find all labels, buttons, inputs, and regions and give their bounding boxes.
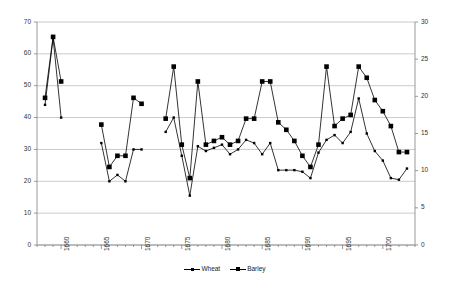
series-marker	[163, 116, 168, 121]
series-marker	[277, 169, 279, 171]
series-marker	[197, 145, 199, 147]
left-axis-tick-label: 60	[0, 50, 31, 57]
series-marker	[374, 150, 376, 152]
series-marker	[115, 154, 120, 159]
right-axis-tick-label: 0	[421, 242, 425, 249]
left-axis-tick-label: 70	[0, 19, 31, 26]
series-marker	[204, 142, 209, 147]
series-marker	[221, 143, 223, 145]
series-marker	[405, 150, 410, 155]
series-marker	[188, 176, 193, 181]
series-marker	[228, 142, 233, 147]
series-marker	[261, 153, 263, 155]
series-marker	[308, 165, 313, 170]
x-axis-tick-label: 1675	[185, 237, 192, 251]
series-marker	[212, 139, 217, 144]
legend-label: Barley	[247, 265, 265, 272]
series-marker	[332, 124, 337, 129]
series-marker	[236, 139, 241, 144]
series-marker	[309, 177, 311, 179]
x-axis-tick-label: 1690	[305, 237, 312, 251]
x-axis-tick-label: 1695	[346, 237, 353, 251]
series-marker	[100, 142, 102, 144]
series-marker	[179, 142, 184, 147]
series-marker	[381, 109, 386, 114]
x-axis-tick-label: 1660	[64, 237, 71, 251]
chart-figure: 0102030405060700510152025301660166516701…	[0, 0, 450, 294]
series-marker	[43, 96, 48, 101]
left-axis-tick-label: 40	[0, 114, 31, 121]
series-marker	[390, 177, 392, 179]
series-marker	[301, 171, 303, 173]
series-marker	[284, 127, 289, 132]
series-marker	[268, 79, 273, 84]
series-marker	[181, 155, 183, 157]
left-axis-tick-label: 10	[0, 210, 31, 217]
left-axis-tick-label: 0	[0, 242, 31, 249]
x-axis-tick-label: 1680	[225, 237, 232, 251]
series-marker	[107, 165, 112, 170]
series-marker	[237, 148, 239, 150]
series-marker	[364, 75, 369, 80]
series-marker	[213, 147, 215, 149]
series-marker	[123, 154, 128, 159]
series-marker	[108, 180, 110, 182]
series-marker	[124, 180, 126, 182]
series-marker	[333, 134, 335, 136]
series-marker	[51, 35, 56, 40]
series-marker	[276, 120, 281, 125]
series-marker	[317, 151, 319, 153]
series-marker	[269, 142, 271, 144]
series-marker	[220, 135, 225, 140]
right-axis-tick-label: 25	[421, 56, 428, 63]
series-marker	[389, 124, 394, 129]
series-marker	[244, 116, 249, 121]
x-axis-tick-label: 1700	[386, 237, 393, 251]
series-marker	[60, 116, 62, 118]
series-marker	[260, 79, 265, 84]
series-marker	[173, 116, 175, 118]
series-marker	[366, 132, 368, 134]
legend-entry-barley[interactable]: Barley	[230, 266, 265, 273]
series-marker	[205, 150, 207, 152]
series-marker	[316, 142, 321, 147]
right-axis-tick-label: 30	[421, 19, 428, 26]
series-marker	[285, 169, 287, 171]
series-marker	[245, 139, 247, 141]
series-marker	[382, 159, 384, 161]
series-marker	[397, 150, 402, 155]
series-marker	[196, 79, 201, 84]
series-marker	[171, 64, 176, 69]
series-marker	[293, 169, 295, 171]
legend-large-square-line-marker	[230, 266, 246, 272]
right-axis-tick-label: 10	[421, 167, 428, 174]
series-marker	[116, 174, 118, 176]
series-marker	[349, 131, 351, 133]
series-marker	[252, 116, 257, 121]
series-marker	[253, 142, 255, 144]
series-marker	[358, 97, 360, 99]
series-marker	[398, 178, 400, 180]
x-axis-tick-label: 1665	[104, 237, 111, 251]
right-axis-tick-label: 15	[421, 130, 428, 137]
legend-entry-wheat[interactable]: Wheat	[184, 266, 220, 273]
right-axis-tick-label: 5	[421, 204, 425, 211]
series-marker	[164, 131, 166, 133]
series-marker	[356, 64, 361, 69]
series-marker	[229, 153, 231, 155]
left-axis-tick-label: 30	[0, 146, 31, 153]
x-axis-tick-label: 1685	[265, 237, 272, 251]
right-axis-tick-label: 20	[421, 93, 428, 100]
series-marker	[59, 79, 64, 84]
series-marker	[44, 104, 46, 106]
series-marker	[348, 113, 353, 118]
series-marker	[372, 98, 377, 103]
series-marker	[131, 96, 136, 101]
x-axis-tick-label: 1670	[145, 237, 152, 251]
chart-legend: WheatBarley	[0, 266, 450, 273]
left-axis-tick-label: 20	[0, 178, 31, 185]
series-marker	[189, 194, 191, 196]
series-marker	[132, 148, 134, 150]
series-marker	[406, 167, 408, 169]
series-marker	[300, 154, 305, 159]
